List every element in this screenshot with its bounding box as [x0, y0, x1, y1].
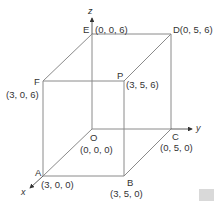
- x-axis-label: x: [21, 187, 26, 197]
- vertex-B-name: B: [127, 178, 133, 188]
- vertex-C-coords: (0, 5, 0): [160, 143, 193, 153]
- vertex-A-coords: (3, 0, 0): [41, 180, 74, 190]
- vertex-D-label: D(0, 5, 6): [173, 25, 213, 35]
- z-axis-label: z: [88, 6, 93, 16]
- edge-DP: [124, 34, 171, 81]
- vertex-P-name: P: [117, 71, 123, 81]
- corner-grey-block: [199, 189, 214, 201]
- vertex-B-coords: (3, 5, 0): [110, 189, 143, 199]
- vertex-E-coords: (0, 0, 6): [95, 25, 128, 35]
- vertex-O-coords: (0, 0, 0): [80, 145, 113, 155]
- vertex-P-coords: (3, 5, 6): [126, 80, 159, 90]
- vertex-F-name: F: [34, 77, 40, 87]
- vertex-A-name: A: [35, 168, 41, 178]
- vertex-O-name: O: [90, 133, 97, 143]
- vertex-E-name: E: [83, 25, 89, 35]
- edge-EF: [43, 34, 92, 81]
- y-axis-label: y: [196, 123, 201, 133]
- vertex-F-coords: (3, 0, 6): [6, 90, 39, 100]
- vertex-C-name: C: [172, 132, 179, 142]
